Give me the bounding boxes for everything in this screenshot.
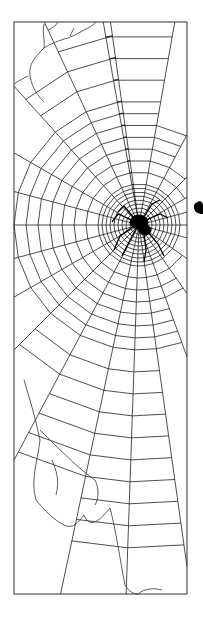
spider-icon — [112, 200, 168, 262]
spider-web-illustration — [0, 0, 203, 619]
leaf-icon — [194, 201, 203, 214]
web-spirals — [14, 32, 186, 548]
branch-twig-bottom — [24, 380, 162, 594]
